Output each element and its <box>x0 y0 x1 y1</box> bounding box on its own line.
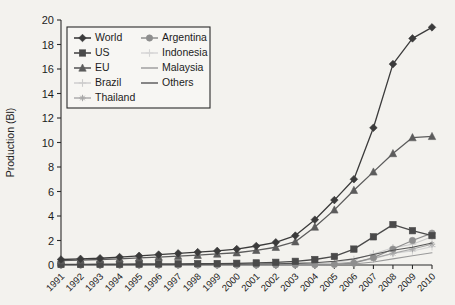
data-point-square <box>409 228 415 234</box>
y-tick-label: 16 <box>42 63 54 75</box>
data-point-square <box>214 260 220 266</box>
data-point-circle <box>351 260 357 266</box>
data-point-square <box>194 260 200 266</box>
data-point-square <box>79 50 85 56</box>
data-point-circle <box>409 237 415 243</box>
y-tick-label: 2 <box>48 235 54 247</box>
legend-item-label: EU <box>95 61 110 73</box>
data-point-square <box>155 261 161 267</box>
data-point-square <box>331 253 337 259</box>
legend-item-label: Others <box>162 76 194 88</box>
legend-item-label: Thailand <box>95 91 135 103</box>
y-tick-label: 0 <box>48 259 54 271</box>
data-point-square <box>234 260 240 266</box>
legend-item-label: US <box>95 46 110 58</box>
production-line-chart: 02468101214161820 1991199219931994199519… <box>0 0 455 305</box>
chart-figure: 02468101214161820 1991199219931994199519… <box>0 0 455 305</box>
data-point-square <box>370 234 376 240</box>
y-tick-label: 14 <box>42 88 54 100</box>
y-tick-label: 10 <box>42 137 54 149</box>
legend-item-label: Malaysia <box>162 61 204 73</box>
y-axis-label: Production (Bl) <box>4 108 16 177</box>
data-point-circle <box>146 35 152 41</box>
y-tick-label: 20 <box>42 14 54 26</box>
y-tick-label: 12 <box>42 112 54 124</box>
data-point-square <box>136 261 142 267</box>
y-tick-label: 6 <box>48 186 54 198</box>
data-point-square <box>292 258 298 264</box>
chart-legend[interactable]: WorldUSEUBrazilThailandArgentinaIndonesi… <box>67 27 210 108</box>
data-point-circle <box>331 261 337 267</box>
data-point-square <box>253 260 259 266</box>
legend-item-label: Brazil <box>95 76 121 88</box>
data-point-square <box>390 221 396 227</box>
y-tick-label: 18 <box>42 39 54 51</box>
y-tick-label: 8 <box>48 161 54 173</box>
legend-item-label: Argentina <box>162 31 207 43</box>
legend-item-label: World <box>95 31 122 43</box>
y-tick-label: 4 <box>48 210 54 222</box>
data-point-square <box>273 259 279 265</box>
data-point-square <box>351 246 357 252</box>
data-point-square <box>175 261 181 267</box>
legend-item-label: Indonesia <box>162 46 208 58</box>
data-point-square <box>312 256 318 262</box>
data-point-square <box>429 232 435 238</box>
